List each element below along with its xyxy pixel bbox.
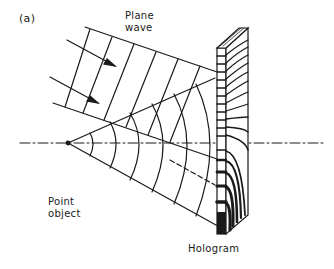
point-object-label-line1: Point [48,196,81,208]
point-object-dot [66,141,71,146]
arrow-icon [50,40,115,103]
hologram-plate [217,28,248,234]
point-object-label-line2: object [48,208,81,220]
panel-label: (a) [19,13,35,25]
hologram-recording-diagram [0,0,334,269]
point-object-label: Point object [48,196,81,220]
plane-wave-label-line1: Plane [125,10,154,22]
hologram-label: Hologram [188,243,239,255]
plane-wave-label: Plane wave [125,10,154,34]
plane-wave-beam [53,27,220,160]
plane-wave-label-line2: wave [125,22,154,34]
